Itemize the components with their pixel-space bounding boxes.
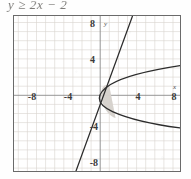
y-tick-label-8: 8: [90, 18, 95, 29]
y-axis-label: y: [103, 20, 108, 28]
grid-lines: [14, 16, 180, 171]
x-tick-label-neg8: -8: [28, 91, 36, 102]
worksheet-page: y ≥ 2x − 2: [0, 0, 191, 179]
x-axis-label: x: [172, 83, 177, 91]
x-tick-label-8: 8: [172, 91, 177, 102]
y-tick-label-4: 4: [90, 54, 95, 65]
inequality-expression: y ≥ 2x − 2: [8, 0, 68, 13]
x-tick-label-4: 4: [136, 91, 141, 102]
coordinate-graph: -8 -4 4 8 8 4 -4 -8 y x: [14, 16, 180, 171]
line-graph: [76, 16, 133, 171]
y-tick-label-neg8: -8: [90, 157, 98, 168]
graph-frame: -8 -4 4 8 8 4 -4 -8 y x: [13, 15, 181, 172]
y-tick-label-neg4: -4: [90, 121, 98, 132]
x-tick-label-neg4: -4: [64, 91, 72, 102]
